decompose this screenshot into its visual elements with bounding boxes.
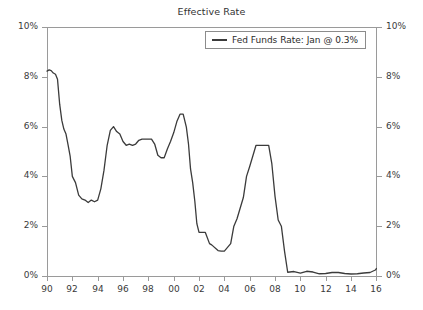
y-tick-right [377, 27, 382, 28]
x-tick [326, 276, 327, 281]
x-tick [148, 276, 149, 281]
y-tick-left [42, 176, 47, 177]
x-tick [224, 276, 225, 281]
x-tick [351, 276, 352, 281]
x-axis-tick-label: 02 [187, 284, 211, 294]
x-axis-tick-label: 94 [86, 284, 110, 294]
y-axis-right-tick-label: 0% [386, 270, 420, 280]
y-tick-right [377, 226, 382, 227]
y-tick-left [42, 77, 47, 78]
y-axis-left-tick-label: 8% [4, 71, 38, 81]
chart-container: Effective Rate 10%8%6%4%2%0% 10%8%6%4%2%… [0, 0, 423, 310]
x-tick [250, 276, 251, 281]
x-axis-tick-label: 04 [212, 284, 236, 294]
y-axis-right-tick-label: 4% [386, 170, 420, 180]
x-axis-line [47, 276, 377, 277]
y-axis-right-tick-label: 10% [386, 21, 420, 31]
y-tick-right [377, 127, 382, 128]
x-axis-tick-label: 08 [263, 284, 287, 294]
x-axis-tick-label: 92 [60, 284, 84, 294]
x-axis-tick-label: 16 [364, 284, 388, 294]
y-axis-left-tick-label: 4% [4, 170, 38, 180]
y-axis-right-tick-label: 6% [386, 121, 420, 131]
y-tick-left [42, 226, 47, 227]
chart-title: Effective Rate [0, 6, 423, 17]
x-tick [174, 276, 175, 281]
y-tick-right [377, 176, 382, 177]
x-tick [300, 276, 301, 281]
x-tick [72, 276, 73, 281]
x-tick [47, 276, 48, 281]
x-axis-tick-label: 06 [238, 284, 262, 294]
x-axis-tick-label: 90 [35, 284, 59, 294]
y-tick-left [42, 27, 47, 28]
legend-color-swatch-icon [212, 39, 227, 41]
x-axis-tick-label: 98 [136, 284, 160, 294]
x-axis-tick-label: 00 [162, 284, 186, 294]
plot-area [47, 27, 377, 276]
y-tick-right [377, 276, 382, 277]
x-axis-tick-label: 10 [288, 284, 312, 294]
legend-entry-label: Fed Funds Rate: Jan @ 0.3% [232, 35, 358, 45]
x-axis-tick-label: 14 [339, 284, 363, 294]
y-axis-left-tick-label: 0% [4, 270, 38, 280]
x-tick [123, 276, 124, 281]
x-tick [98, 276, 99, 281]
y-tick-left [42, 127, 47, 128]
x-tick [275, 276, 276, 281]
y-axis-left-tick-label: 6% [4, 121, 38, 131]
y-axis-right-tick-label: 8% [386, 71, 420, 81]
x-axis-tick-label: 96 [111, 284, 135, 294]
x-tick [199, 276, 200, 281]
y-tick-right [377, 77, 382, 78]
y-axis-left-tick-label: 10% [4, 21, 38, 31]
x-axis-tick-label: 12 [314, 284, 338, 294]
y-axis-left-tick-label: 2% [4, 220, 38, 230]
chart-legend[interactable]: Fed Funds Rate: Jan @ 0.3% [205, 31, 366, 49]
y-axis-right-tick-label: 2% [386, 220, 420, 230]
x-tick [376, 276, 377, 281]
